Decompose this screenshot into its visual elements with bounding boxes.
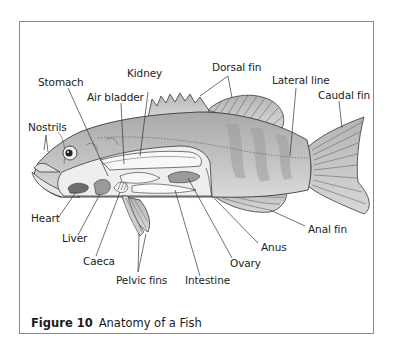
label-stomach: Stomach	[38, 77, 84, 88]
label-anus: Anus	[261, 242, 287, 253]
label-dorsal-fin: Dorsal fin	[212, 62, 261, 73]
label-nostrils: Nostrils	[28, 122, 67, 133]
label-air-bladder: Air bladder	[87, 92, 144, 103]
heart	[68, 183, 88, 193]
label-caeca: Caeca	[83, 256, 115, 267]
figure-title: Anatomy of a Fish	[99, 316, 202, 330]
pelvic-fins	[122, 196, 150, 236]
label-heart: Heart	[31, 213, 60, 224]
label-kidney: Kidney	[127, 68, 162, 79]
label-intestine: Intestine	[185, 275, 230, 286]
fish-eye	[63, 146, 77, 160]
liver	[94, 180, 110, 195]
figure-number: Figure 10	[31, 316, 93, 330]
label-ovary: Ovary	[230, 258, 261, 269]
label-anal-fin: Anal fin	[308, 224, 347, 235]
figure-caption: Figure 10Anatomy of a Fish	[31, 318, 202, 330]
caudal-fin	[307, 117, 369, 214]
fish-illustration	[0, 0, 395, 355]
label-pelvic-fins: Pelvic fins	[116, 275, 167, 286]
label-lateral-line: Lateral line	[272, 75, 330, 86]
label-liver: Liver	[62, 233, 87, 244]
label-caudal-fin: Caudal fin	[318, 90, 370, 101]
